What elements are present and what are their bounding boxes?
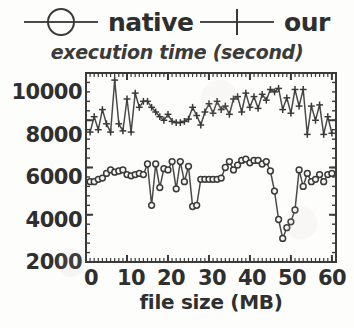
series-our [87,77,336,138]
plot-area [0,0,354,328]
chart-figure: native our execution time (second) 2000 … [0,0,354,328]
series-native [87,156,335,241]
